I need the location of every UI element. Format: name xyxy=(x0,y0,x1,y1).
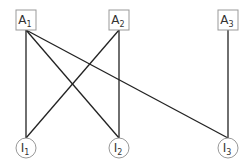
node-a1: A1 xyxy=(16,10,36,30)
node-i1: I1 xyxy=(16,138,36,158)
node-i3: I3 xyxy=(218,138,238,158)
edges-group xyxy=(26,30,228,138)
node-i2: I2 xyxy=(109,138,129,158)
node-a3: A3 xyxy=(218,10,238,30)
top-nodes-group: A1A2A3 xyxy=(16,10,238,30)
edge-a1-i3 xyxy=(26,30,228,138)
node-a2: A2 xyxy=(109,10,129,30)
bottom-nodes-group: I1I2I3 xyxy=(16,138,238,158)
bipartite-diagram: A1A2A3 I1I2I3 xyxy=(0,0,250,167)
